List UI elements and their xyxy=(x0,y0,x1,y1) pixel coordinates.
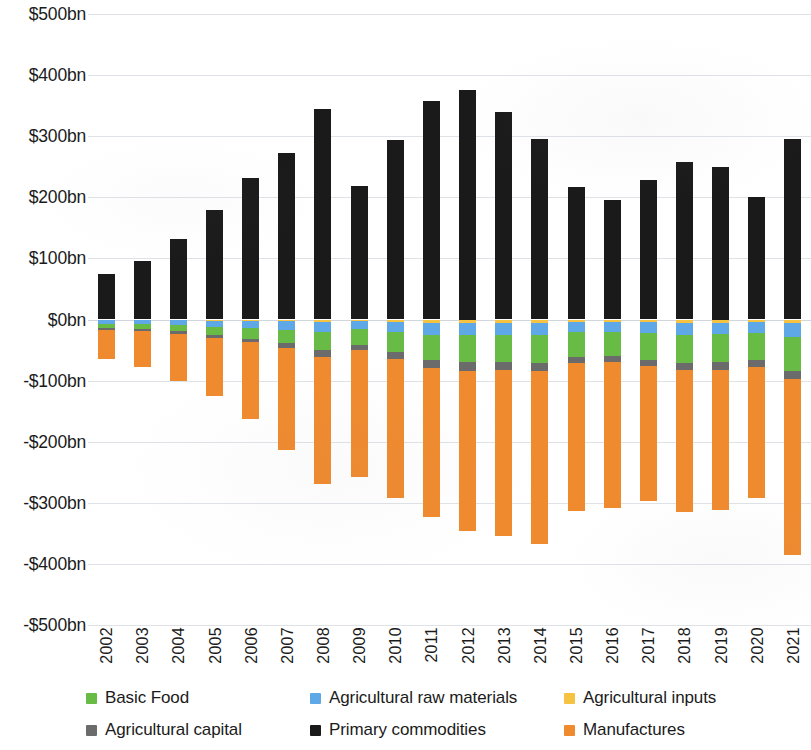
legend-swatch-icon xyxy=(564,725,575,736)
legend-item[interactable]: Agricultural raw materials xyxy=(310,688,517,708)
bar-column[interactable] xyxy=(676,14,693,625)
bar-column[interactable] xyxy=(459,14,476,625)
x-axis-tick-label: 2004 xyxy=(170,627,188,664)
bar-segment xyxy=(495,335,512,362)
bar-column[interactable] xyxy=(748,14,765,625)
stacked-bar-chart: $500bn$400bn$300bn$200bn$100bn$0bn-$100b… xyxy=(0,0,811,750)
x-axis-tick-label: 2007 xyxy=(279,627,297,664)
bar-column[interactable] xyxy=(531,14,548,625)
bar-segment xyxy=(387,359,404,498)
legend-item[interactable]: Primary commodities xyxy=(310,720,486,740)
x-axis-tick-label: 2020 xyxy=(749,627,767,664)
bar-column[interactable] xyxy=(387,14,404,625)
bar-segment xyxy=(604,362,621,509)
legend-item[interactable]: Agricultural capital xyxy=(86,720,242,740)
x-axis-tick-label: 2006 xyxy=(243,627,261,664)
bar-segment xyxy=(423,323,440,335)
legend-item-label: Agricultural inputs xyxy=(583,688,716,708)
bar-segment xyxy=(495,370,512,536)
bar-segment xyxy=(568,363,585,511)
legend-item[interactable]: Manufactures xyxy=(564,720,685,740)
y-axis-tick-label: $300bn xyxy=(2,126,86,147)
x-axis-tick-label: 2013 xyxy=(496,627,514,664)
bar-segment xyxy=(748,360,765,367)
bar-column[interactable] xyxy=(712,14,729,625)
legend-item[interactable]: Agricultural inputs xyxy=(564,688,716,708)
legend-swatch-icon xyxy=(86,693,97,704)
bar-segment xyxy=(351,350,368,477)
bar-column[interactable] xyxy=(134,14,151,625)
x-axis-tick-label: 2014 xyxy=(532,627,550,664)
bar-column[interactable] xyxy=(170,14,187,625)
legend-swatch-icon xyxy=(86,725,97,736)
bar-segment xyxy=(640,333,657,359)
bar-segment xyxy=(423,360,440,368)
bar-segment xyxy=(568,322,585,332)
bar-segment xyxy=(640,322,657,333)
bar-segment xyxy=(712,334,729,362)
legend-swatch-icon xyxy=(310,693,321,704)
bar-column[interactable] xyxy=(784,14,801,625)
bar-segment xyxy=(604,322,621,332)
bar-column[interactable] xyxy=(351,14,368,625)
bar-segment xyxy=(604,200,621,319)
bar-segment xyxy=(640,360,657,367)
bar-segment xyxy=(314,350,331,357)
bar-column[interactable] xyxy=(604,14,621,625)
bar-segment xyxy=(423,335,440,360)
bar-segment xyxy=(459,371,476,531)
bar-segment xyxy=(459,362,476,371)
bar-column[interactable] xyxy=(568,14,585,625)
gridline xyxy=(88,625,811,626)
legend-swatch-icon xyxy=(564,693,575,704)
bar-column[interactable] xyxy=(423,14,440,625)
bar-column[interactable] xyxy=(206,14,223,625)
bar-segment xyxy=(712,362,729,369)
x-axis-tick-label: 2017 xyxy=(640,627,658,664)
x-axis: 2002200320042005200620072008200920102011… xyxy=(88,627,811,685)
bar-segment xyxy=(531,371,548,544)
bar-segment xyxy=(170,239,187,319)
bar-column[interactable] xyxy=(278,14,295,625)
y-axis-tick-label: -$500bn xyxy=(2,615,86,636)
chart-legend: Basic FoodAgricultural raw materialsAgri… xyxy=(78,688,778,748)
bar-column[interactable] xyxy=(242,14,259,625)
y-axis-tick-label: $100bn xyxy=(2,248,86,269)
bar-segment xyxy=(206,338,223,397)
bar-segment xyxy=(495,362,512,370)
bar-segment xyxy=(784,323,801,336)
bar-segment xyxy=(676,363,693,370)
y-axis-tick-label: $500bn xyxy=(2,4,86,25)
bar-column[interactable] xyxy=(640,14,657,625)
bar-segment xyxy=(387,332,404,352)
bar-segment xyxy=(206,210,223,320)
bar-segment xyxy=(242,342,259,418)
legend-item[interactable]: Basic Food xyxy=(86,688,189,708)
bar-segment xyxy=(531,363,548,371)
bar-segment xyxy=(242,178,259,320)
bar-segment xyxy=(568,332,585,357)
bar-segment xyxy=(351,186,368,320)
bar-column[interactable] xyxy=(495,14,512,625)
bar-column[interactable] xyxy=(314,14,331,625)
y-axis-tick-label: -$300bn xyxy=(2,492,86,513)
bar-segment xyxy=(640,180,657,319)
bar-segment xyxy=(387,322,404,332)
bar-segment xyxy=(278,153,295,319)
bar-segment xyxy=(784,337,801,371)
bar-segment xyxy=(459,90,476,319)
x-axis-tick-label: 2018 xyxy=(676,627,694,664)
bar-segment xyxy=(712,167,729,320)
x-axis-tick-label: 2021 xyxy=(785,627,803,664)
legend-item-label: Agricultural capital xyxy=(105,720,242,740)
bar-segment xyxy=(748,197,765,320)
bar-segment xyxy=(278,330,295,343)
y-axis: $500bn$400bn$300bn$200bn$100bn$0bn-$100b… xyxy=(0,14,86,625)
bar-column[interactable] xyxy=(98,14,115,625)
bar-segment xyxy=(98,274,115,320)
bar-segment xyxy=(387,140,404,320)
legend-item-label: Manufactures xyxy=(583,720,685,740)
y-axis-tick-label: -$100bn xyxy=(2,370,86,391)
x-axis-tick-label: 2003 xyxy=(134,627,152,664)
bar-segment xyxy=(748,333,765,360)
